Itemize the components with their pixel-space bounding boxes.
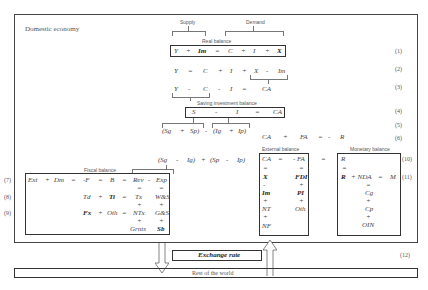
fiscal-ntx: NTx bbox=[133, 210, 145, 217]
eq2-x: X bbox=[254, 68, 258, 75]
saving-investment-label: Saving investment balance bbox=[197, 100, 257, 106]
eq10-sg: (Sg bbox=[158, 157, 167, 164]
eq1-im: Im bbox=[198, 48, 206, 55]
eq4-minus: - bbox=[215, 109, 217, 116]
mon-eq: = bbox=[378, 174, 383, 181]
eq1-op: + bbox=[186, 48, 191, 55]
eq-number-6: (6) bbox=[395, 135, 402, 141]
eq2-i: I bbox=[230, 68, 232, 75]
eq-number-5: (5) bbox=[395, 122, 402, 128]
eq3-op: - bbox=[188, 86, 190, 93]
fiscal-dm: Dm bbox=[54, 177, 64, 184]
eq1-eq: = bbox=[215, 48, 220, 55]
fiscal-grnts: Grnts bbox=[130, 226, 146, 233]
fiscal-eq2: = bbox=[98, 177, 103, 184]
fiscal-plus: + bbox=[45, 177, 50, 184]
eq5-ig: (Ig bbox=[213, 128, 221, 135]
eq10-plus: + bbox=[201, 157, 206, 164]
eq3-c: C bbox=[203, 86, 208, 93]
eq2-op2: + bbox=[242, 68, 247, 75]
saving-investment-box bbox=[185, 107, 285, 118]
eq2-y: Y bbox=[174, 68, 178, 75]
eq5-sg: (Sg bbox=[162, 128, 171, 135]
ext-ca: CA bbox=[262, 156, 271, 163]
eq1-c: C bbox=[228, 48, 233, 55]
eq1-x: X bbox=[277, 48, 282, 55]
eq3-y: Y bbox=[174, 86, 178, 93]
eq5-ip: Ip) bbox=[238, 128, 246, 135]
eq3-eq: = bbox=[242, 86, 247, 93]
eq4-i: I bbox=[236, 109, 238, 116]
eq-number-9: (9) bbox=[4, 210, 11, 216]
eq-number-4: (4) bbox=[395, 108, 402, 114]
fiscal-td: Td bbox=[83, 194, 90, 201]
eq-number-1: (1) bbox=[395, 48, 402, 54]
fiscal-eq9: = bbox=[122, 210, 127, 217]
eq3-ca: CA bbox=[262, 86, 271, 93]
eq2-im: Im bbox=[278, 68, 285, 75]
eq-number-2: (2) bbox=[395, 66, 402, 72]
fiscal-oth: Oth bbox=[107, 210, 118, 217]
fiscal-tx: Tx bbox=[135, 194, 142, 201]
ext-fdi: FDI bbox=[295, 174, 307, 181]
eq6-ca: CA bbox=[262, 134, 271, 141]
mon-nda: + NDA bbox=[351, 174, 371, 181]
eq6-plus: + bbox=[283, 134, 288, 141]
mon-m: M bbox=[390, 174, 396, 181]
fiscal-b: B bbox=[110, 177, 114, 184]
eq10-minus: - bbox=[176, 157, 178, 164]
fiscal-sb: Sb bbox=[157, 226, 164, 233]
fiscal-eq3: = bbox=[122, 177, 127, 184]
eq2-op: + bbox=[218, 68, 223, 75]
eq10-ig: Ig) bbox=[187, 157, 195, 164]
fiscal-negf: -F bbox=[83, 177, 90, 184]
eq4-ca: CA bbox=[273, 109, 282, 116]
eq-number-11: (11) bbox=[402, 174, 412, 180]
fiscal-ext: Ext bbox=[28, 177, 37, 184]
eq4-eq: = bbox=[255, 109, 260, 116]
monetary-label: Monetary balance bbox=[350, 146, 390, 152]
eq6-minus: - bbox=[328, 134, 330, 141]
ext-nf: NF bbox=[262, 223, 271, 230]
ext-x: X bbox=[263, 174, 268, 181]
fiscal-eq8: = bbox=[122, 194, 127, 201]
demand-label: Demand bbox=[246, 19, 265, 25]
eq1-op2: + bbox=[241, 48, 246, 55]
eq1-i: I bbox=[253, 48, 255, 55]
mon-r: R bbox=[341, 174, 346, 181]
fiscal-ws: W&S bbox=[155, 194, 170, 201]
fiscal-minus: - bbox=[148, 177, 150, 184]
eq1-y: Y bbox=[174, 48, 178, 55]
fiscal-eq1: = bbox=[71, 177, 76, 184]
fiscal-rev: Rev bbox=[133, 177, 144, 184]
mon-oin: OIN bbox=[362, 222, 374, 229]
fiscal-gs: G&S bbox=[155, 210, 169, 217]
ext-im: Im bbox=[262, 190, 270, 197]
eq10-ip: Ip) bbox=[237, 157, 245, 164]
eq3-op2: - bbox=[218, 86, 220, 93]
ext-pi: PI bbox=[297, 190, 304, 197]
eq5-plus2: + bbox=[229, 128, 234, 135]
mon-r-top: R bbox=[341, 156, 345, 163]
eq2-eq: = bbox=[188, 68, 193, 75]
demand-brace bbox=[225, 31, 284, 36]
ext-nt: NT bbox=[262, 206, 271, 213]
eq10-sp: (Sp bbox=[210, 157, 219, 164]
eq1-op3: + bbox=[265, 48, 270, 55]
eq4-s: S bbox=[192, 109, 196, 116]
eq5-minus: - bbox=[205, 128, 207, 135]
domestic-economy-title: Domestic economy bbox=[25, 25, 79, 33]
fiscal-exp: Exp bbox=[156, 177, 167, 184]
eq2-minus: - bbox=[266, 68, 268, 75]
eq-number-3: (3) bbox=[395, 84, 402, 90]
eq-number-10: (10) bbox=[402, 156, 412, 162]
fiscal-fx: Fx bbox=[83, 210, 91, 217]
eq2-c: C bbox=[203, 68, 208, 75]
external-label: External balance bbox=[262, 146, 299, 152]
eq10-minus2: - bbox=[226, 157, 228, 164]
mon-cg: Cg bbox=[365, 190, 373, 197]
ext-fa: - FA bbox=[293, 156, 305, 163]
eq6-fa: FA bbox=[300, 134, 308, 141]
eq-number-12: (12) bbox=[400, 252, 410, 258]
rest-of-world-label: Rest of the world bbox=[192, 270, 234, 276]
